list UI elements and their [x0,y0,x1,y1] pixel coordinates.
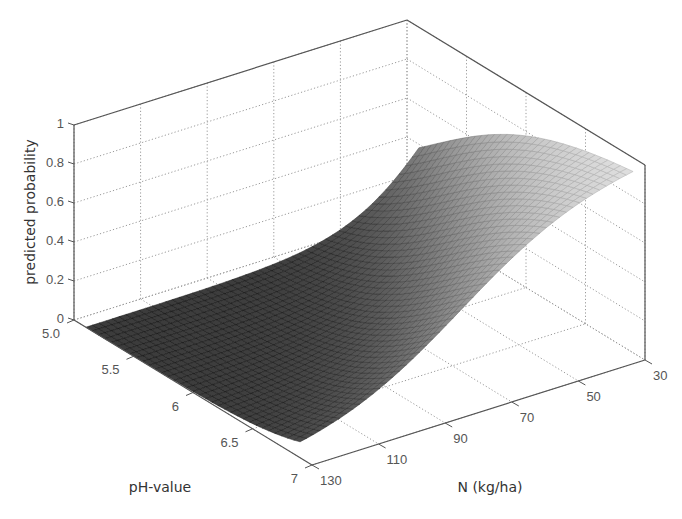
z-tick-mark [68,279,74,281]
z-tick-label: 0.2 [46,272,64,287]
z-tick-mark [68,201,74,203]
z-tick-label: 1 [57,116,64,131]
ph-tick-mark [186,393,193,396]
n-tick-mark [578,381,585,385]
gridline-z-left [74,59,407,164]
ph-tick-label: 5.5 [101,362,119,377]
ph-tick-mark [67,320,74,323]
ph-tick-mark [246,429,253,432]
ph-tick-label: 5.0 [42,326,60,341]
n-tick-label: 90 [453,431,467,446]
ph-tick-mark [305,465,312,468]
surface-plot-figure: 00.20.40.60.815.05.566.5713011090705030 … [0,0,682,519]
n-tick-mark [445,423,452,427]
ph-tick-mark [127,356,134,359]
ph-tick-label: 6 [172,399,179,414]
surface-plot: 00.20.40.60.815.05.566.5713011090705030 … [0,0,682,519]
ph-tick-label: 6.5 [220,435,238,450]
z-tick-label: 0.6 [46,194,64,209]
x-axis-label: pH-value [129,479,191,495]
n-tick-mark [512,402,519,406]
gridline-z-left [74,98,407,203]
box-top-left-edge [74,20,407,125]
z-tick-label: 0 [57,311,64,326]
z-tick-mark [68,123,74,125]
z-tick-mark [68,162,74,164]
n-tick-label: 130 [320,473,342,488]
probability-surface [86,134,633,441]
n-tick-mark [379,444,386,448]
n-tick-label: 70 [520,410,534,425]
n-tick-mark [312,465,319,469]
z-tick-mark [68,318,74,320]
z-tick-label: 0.8 [46,155,64,170]
z-axis-label: predicted probability [22,139,38,285]
n-tick-mark [645,360,652,364]
z-tick-mark [68,240,74,242]
n-tick-label: 30 [653,368,667,383]
n-tick-label: 50 [586,389,600,404]
ph-tick-label: 7 [291,471,298,486]
n-tick-label: 110 [387,452,408,467]
y-axis-label: N (kg/ha) [457,479,522,495]
z-tick-label: 0.4 [46,233,64,248]
